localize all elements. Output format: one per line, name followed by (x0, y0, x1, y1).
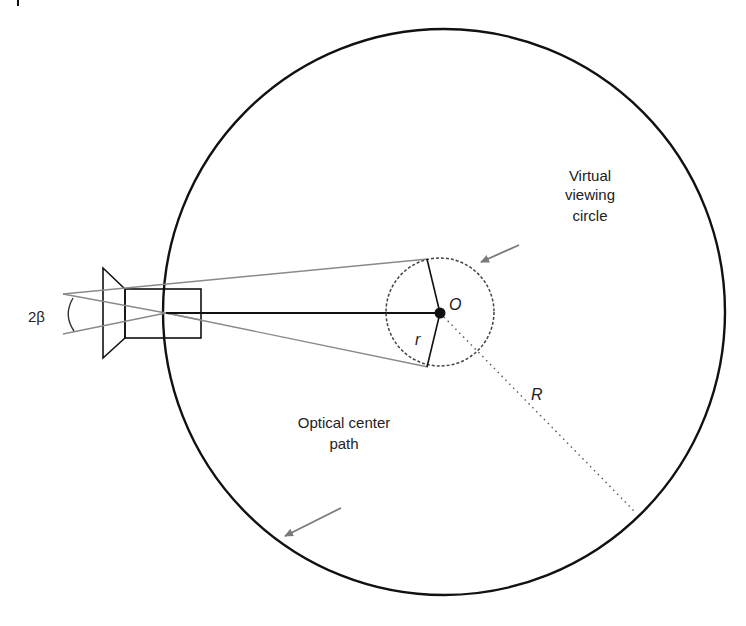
center-label-O: O (449, 296, 461, 313)
angle-label-2beta: 2β (28, 308, 45, 325)
radius-R-line (440, 313, 636, 513)
upper-fov-ray (63, 259, 428, 294)
label-line: path (329, 435, 358, 452)
view-angle-arc (68, 298, 74, 331)
panoramic-camera-geometry-diagram: 2β O r R Virtual viewing circle Optical … (0, 0, 746, 626)
upper-fov-ray-back (63, 294, 166, 313)
radius-label-r: r (415, 331, 421, 348)
label-line: Optical center (298, 414, 391, 431)
optical-center-path-leader-arrow (285, 508, 341, 536)
virtual-viewing-circle-leader-arrow (481, 245, 519, 262)
radius-label-R: R (531, 386, 543, 403)
virtual-viewing-circle-label: Virtual viewing circle (565, 167, 615, 224)
label-line: Virtual (569, 167, 611, 184)
radius-r-lower (427, 313, 440, 367)
label-line: circle (572, 207, 607, 224)
center-point-O (435, 308, 446, 319)
lower-fov-ray (166, 313, 428, 367)
lower-fov-ray-back (63, 313, 166, 334)
label-line: viewing (565, 186, 615, 203)
upper-ray-extension (166, 313, 201, 320)
optical-center-path-label: Optical center path (298, 414, 391, 452)
camera-lens-icon (103, 268, 125, 358)
radius-r-upper (427, 259, 440, 313)
